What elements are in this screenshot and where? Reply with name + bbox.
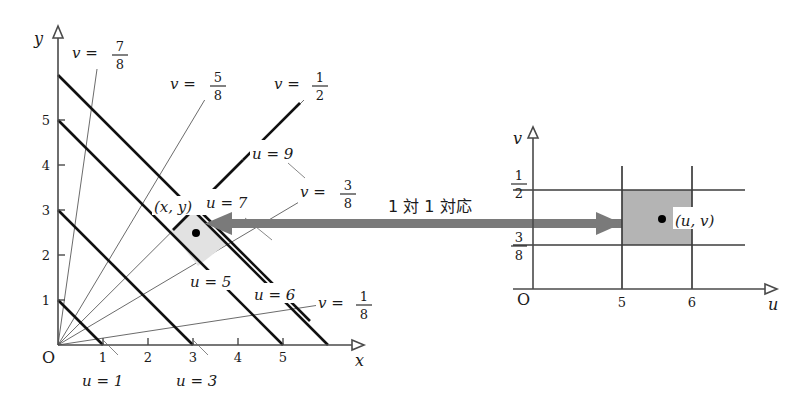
v-label-3-8-denom: 8 [344,196,352,211]
v-label-7-8: v = 7 8 [70,33,136,72]
v-label-1-2-numer: 1 [316,70,324,85]
v-label-5-8-numer: 5 [214,70,222,85]
v-label-1-8-numer: 1 [360,289,368,304]
connector-caption: 1 対 1 対応 [388,197,472,216]
v-tick-label-1-2-numer: 1 [515,168,523,183]
u-label-9: u = 9 [252,145,294,163]
connector-shaft [222,219,622,228]
u-tick-label-6: 6 [688,295,696,310]
v-axis-arrowhead [528,127,538,138]
u-label-1: u = 1 [82,372,123,390]
x-tick-label-2: 2 [144,350,152,365]
point-marker-uv [658,215,666,223]
v-label-3-8: v = 3 8 [298,172,362,211]
v-label-1-8: v = 1 8 [316,283,378,322]
v-label-5-8: v = 5 8 [168,64,234,103]
v-label-1-8-denom: 8 [360,307,368,322]
point-marker-xy [192,229,200,237]
v-tick-label-1-2: 1 2 [511,168,527,201]
v-label-1-8-lhs: v = [318,294,344,312]
y-axis-arrowhead [53,26,63,38]
v-label-3-8-numer: 3 [344,178,352,193]
right-u-axis-label: u [768,295,778,314]
v-label-7-8-lhs: v = [72,44,98,62]
diagram-canvas: 1 2 3 4 5 1 2 3 4 5 O x y (x, y) v = 7 8… [0,0,802,405]
v-label-7-8-denom: 8 [116,57,124,72]
u-tick-label-5: 5 [618,295,626,310]
v-tick-label-3-8-denom: 8 [515,248,523,263]
y-tick-label-1: 1 [42,293,50,308]
v-label-1-2-denom: 2 [316,88,324,103]
right-origin-label: O [517,290,530,309]
y-tick-label-2: 2 [42,248,50,263]
y-tick-label-5: 5 [42,113,50,128]
connector-arrowhead-right [596,212,622,235]
v-label-1-2-lhs: v = [274,75,300,93]
x-tick-label-3: 3 [189,350,197,365]
point-label-xy: (x, y) [154,198,192,216]
y-tick-label-3: 3 [42,203,50,218]
u-axis-arrowhead [765,284,777,294]
x-axis-arrowhead [352,340,364,350]
left-origin-label: O [42,348,55,367]
figure-root: 1 2 3 4 5 1 2 3 4 5 O x y (x, y) v = 7 8… [0,0,802,405]
v-label-5-8-lhs: v = [170,75,196,93]
correspondence-connector: 1 対 1 対応 [205,191,622,235]
v-ray-1-8 [58,300,352,345]
v-label-7-8-numer: 7 [116,39,124,54]
v-tick-label-1-2-denom: 2 [515,186,523,201]
point-label-uv: (u, v) [675,212,715,230]
left-y-axis-label: y [33,29,44,48]
v-label-1-2: v = 1 2 [272,64,334,103]
y-tick-label-4: 4 [42,158,50,173]
right-v-axis-label: v [513,129,522,148]
x-tick-label-4: 4 [234,350,242,365]
u-label-5: u = 5 [190,273,231,291]
v-tick-label-3-8: 3 8 [511,230,527,263]
v-tick-label-3-8-numer: 3 [515,230,523,245]
x-tick-label-1: 1 [99,350,107,365]
u-label-6: u = 6 [254,286,296,304]
v-label-5-8-denom: 8 [214,88,222,103]
v-ray-7-8 [58,55,99,345]
left-x-axis-label: x [355,351,364,370]
left-panel-xy-plane: 1 2 3 4 5 1 2 3 4 5 O x y (x, y) v = 7 8… [33,26,378,390]
x-tick-label-5: 5 [279,350,287,365]
u-label-7: u = 7 [206,194,248,212]
v-label-3-8-lhs: v = [300,183,326,201]
u-label-3: u = 3 [176,372,217,390]
shaded-region-xy [170,209,226,266]
u-label-9-leader [288,163,305,178]
